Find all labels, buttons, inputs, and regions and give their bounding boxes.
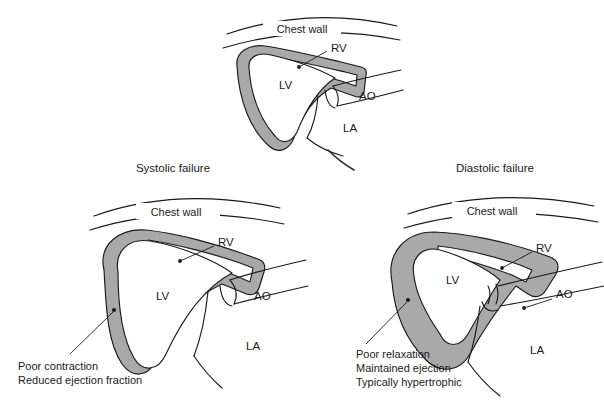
systolic-note-line-1: Poor contraction	[18, 360, 98, 372]
rv-label: RV	[218, 236, 234, 248]
systolic-note-line-2: Reduced ejection fraction	[18, 374, 142, 386]
la-label: LA	[246, 340, 260, 352]
la-upper-wall	[325, 90, 335, 108]
aorta-lower-wall	[500, 286, 604, 306]
ao-leader-dot	[522, 306, 526, 310]
la-label: LA	[530, 344, 544, 356]
rv-label: RV	[536, 242, 552, 254]
diastolic-note-line-3: Typically hypertrophic	[356, 376, 462, 388]
ao-leader-line	[524, 299, 552, 308]
panel-normal-heart: Chest wall RV LV AO LA	[215, 4, 405, 164]
diastolic-note-dot	[406, 298, 410, 302]
systolic-panel-title: Systolic failure	[136, 162, 210, 174]
ao-label: AO	[254, 290, 271, 302]
la-lower-wall	[194, 356, 222, 388]
systolic-note-dot	[112, 308, 116, 312]
panel-systolic-failure: Systolic failure Chest wall RV LV AO LA …	[8, 158, 308, 402]
figure-canvas: Chest wall RV LV AO LA Systolic failure …	[0, 0, 604, 404]
rv-leader-dot	[178, 259, 182, 263]
la-label: LA	[343, 122, 357, 134]
panel-diastolic-failure: Diastolic failure Chest wall RV LV AO LA…	[340, 158, 604, 402]
diastolic-note-line-1: Poor relaxation	[356, 348, 430, 360]
ao-label: AO	[556, 288, 573, 300]
la-lower-wall	[468, 362, 500, 396]
la-lower-wall	[307, 138, 343, 156]
rv-leader-dot	[297, 65, 301, 69]
rv-leader-dot	[500, 266, 504, 270]
systolic-note-leader-line	[70, 312, 113, 354]
lv-label: LV	[156, 290, 170, 302]
lv-label: LV	[446, 274, 460, 286]
chest-wall-label: Chest wall	[277, 23, 328, 35]
lv-label: LV	[279, 79, 293, 91]
diastolic-note-line-2: Maintained ejection	[356, 362, 451, 374]
rv-label: RV	[331, 42, 347, 54]
chest-wall-label: Chest wall	[151, 206, 202, 218]
diastolic-panel-title: Diastolic failure	[456, 162, 534, 174]
ao-label: AO	[359, 90, 376, 102]
la-upper-wall	[220, 286, 232, 306]
chest-wall-label: Chest wall	[467, 205, 518, 217]
